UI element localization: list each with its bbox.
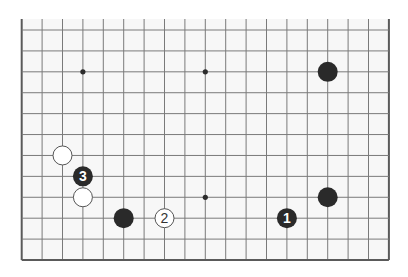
stone-body xyxy=(53,146,72,165)
stone-body xyxy=(114,208,134,228)
black-stone-1: 1 xyxy=(277,208,297,228)
white-stone xyxy=(53,146,72,165)
white-stone-2: 2 xyxy=(155,209,174,228)
move-number-label: 2 xyxy=(161,210,169,226)
star-point xyxy=(203,195,208,200)
go-board-diagram: 321 xyxy=(0,0,408,277)
black-stone xyxy=(114,208,134,228)
stone-body xyxy=(318,187,338,207)
black-stone-3: 3 xyxy=(73,166,93,186)
black-stone xyxy=(318,187,338,207)
stone-body xyxy=(318,62,338,82)
white-stone xyxy=(73,188,92,207)
star-point xyxy=(203,69,208,74)
move-number-label: 1 xyxy=(283,210,291,226)
star-point xyxy=(80,69,85,74)
black-stone xyxy=(318,62,338,82)
move-number-label: 3 xyxy=(79,168,87,184)
stone-body xyxy=(73,188,92,207)
